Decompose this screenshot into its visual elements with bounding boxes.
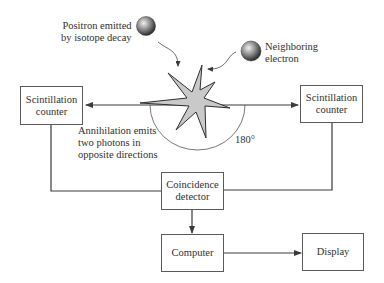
scintillation-counter-right: Scintillation counter [300, 85, 363, 123]
electron-label: Neighboring electron [265, 41, 318, 65]
computer-box: Computer [161, 234, 224, 272]
computer-label: Computer [172, 247, 214, 259]
annihilation-label: Annihilation emits two photons in opposi… [78, 125, 158, 161]
scintillation-counter-left-label: Scintillation counter [26, 94, 77, 118]
scintillation-counter-left: Scintillation counter [20, 86, 83, 125]
display-label: Display [317, 246, 350, 258]
positron-label-line2: by isotope decay [61, 32, 132, 44]
display-box: Display [302, 233, 364, 271]
electron-label-line2: electron [265, 53, 318, 65]
scintillation-counter-right-label: Scintillation counter [306, 92, 357, 116]
angle-label: 180° [235, 134, 255, 146]
coincidence-detector-box: Coincidence detector [161, 172, 224, 210]
annihilation-label-line1: Annihilation emits [78, 125, 158, 137]
electron-path-arrow [208, 52, 236, 69]
annihilation-label-line2: two photons in [78, 137, 158, 149]
annihilation-label-line3: opposite directions [78, 149, 158, 161]
positron-path-arrow [158, 42, 178, 66]
positron-label-line1: Positron emitted [61, 20, 132, 32]
positron-sphere-icon [137, 17, 156, 36]
electron-sphere-icon [241, 41, 261, 61]
positron-label: Positron emitted by isotope decay [61, 20, 132, 44]
connector-right-to-coincidence [224, 122, 332, 190]
electron-label-line1: Neighboring [265, 41, 318, 53]
coincidence-detector-label: Coincidence detector [166, 179, 218, 203]
